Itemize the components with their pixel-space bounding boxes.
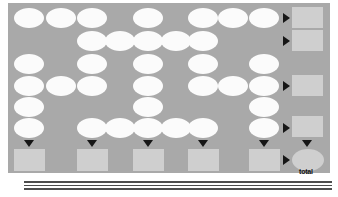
grid-cell[interactable]	[188, 54, 218, 74]
grid-cell[interactable]	[188, 8, 218, 28]
worksheet-sheet: total	[0, 0, 338, 197]
row-sum-box[interactable]	[292, 75, 323, 96]
row-sum-box[interactable]	[292, 30, 323, 51]
grid-cell[interactable]	[14, 76, 44, 96]
grid-cell[interactable]	[188, 31, 218, 51]
grid-cell[interactable]	[77, 118, 107, 138]
grid-cell[interactable]	[249, 76, 279, 96]
arrow-down-icon	[87, 140, 97, 147]
grid-cell[interactable]	[46, 8, 76, 28]
arrow-down-icon	[302, 140, 312, 147]
arrow-down-icon	[259, 140, 269, 147]
arrow-right-icon	[283, 13, 290, 23]
grid-cell[interactable]	[133, 8, 163, 28]
grid-cell[interactable]	[77, 76, 107, 96]
arrow-right-icon	[283, 81, 290, 91]
column-sum-box[interactable]	[188, 149, 219, 171]
divider-line	[24, 181, 332, 183]
column-sum-box[interactable]	[249, 149, 280, 171]
arrow-down-icon	[198, 140, 208, 147]
grid-cell[interactable]	[46, 76, 76, 96]
divider-line	[24, 188, 332, 190]
grid-cell[interactable]	[188, 118, 218, 138]
grid-cell[interactable]	[161, 118, 191, 138]
grid-cell[interactable]	[133, 118, 163, 138]
grid-cell[interactable]	[249, 8, 279, 28]
grid-cell[interactable]	[249, 97, 279, 117]
grid-cell[interactable]	[77, 8, 107, 28]
row-sum-box[interactable]	[292, 7, 323, 28]
grid-cell[interactable]	[188, 76, 218, 96]
arrow-right-icon	[283, 155, 290, 165]
grid-cell[interactable]	[77, 31, 107, 51]
total-label: total	[299, 168, 313, 176]
grid-cell[interactable]	[161, 31, 191, 51]
grid-cell[interactable]	[105, 31, 135, 51]
grid-cell[interactable]	[249, 118, 279, 138]
arrow-down-icon	[143, 140, 153, 147]
grid-cell[interactable]	[218, 8, 248, 28]
grid-cell[interactable]	[14, 118, 44, 138]
column-sum-box[interactable]	[77, 149, 108, 171]
grid-cell[interactable]	[105, 118, 135, 138]
grid-cell[interactable]	[14, 97, 44, 117]
arrow-right-icon	[283, 36, 290, 46]
arrow-down-icon	[24, 140, 34, 147]
grid-cell[interactable]	[218, 76, 248, 96]
grid-cell[interactable]	[77, 54, 107, 74]
grid-cell[interactable]	[133, 54, 163, 74]
grid-cell[interactable]	[133, 97, 163, 117]
grid-cell[interactable]	[14, 8, 44, 28]
column-sum-box[interactable]	[133, 149, 164, 171]
row-sum-box[interactable]	[292, 116, 323, 137]
grid-cell[interactable]	[249, 54, 279, 74]
arrow-right-icon	[283, 123, 290, 133]
grid-cell[interactable]	[133, 76, 163, 96]
divider-line	[24, 185, 332, 186]
column-sum-box[interactable]	[14, 149, 45, 171]
grid-cell[interactable]	[133, 31, 163, 51]
grid-cell[interactable]	[14, 54, 44, 74]
